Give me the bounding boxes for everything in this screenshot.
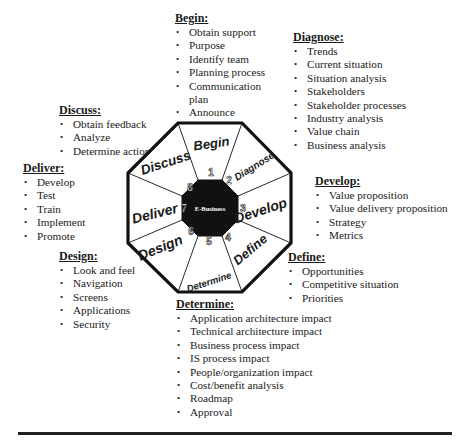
- segment-number-8: 8: [187, 182, 193, 193]
- octagon-wheel-diagram: E-Business Begin Diagnose Develop Define…: [0, 0, 467, 443]
- segment-number-1: 1: [208, 167, 214, 178]
- segment-number-5: 5: [206, 236, 212, 247]
- bottom-divider: [18, 432, 452, 435]
- center-label: E-Business: [195, 205, 226, 212]
- segment-number-2: 2: [226, 175, 232, 186]
- segment-number-6: 6: [188, 226, 194, 237]
- segment-number-7: 7: [181, 203, 187, 214]
- segment-number-3: 3: [240, 203, 246, 214]
- segment-number-4: 4: [225, 232, 231, 243]
